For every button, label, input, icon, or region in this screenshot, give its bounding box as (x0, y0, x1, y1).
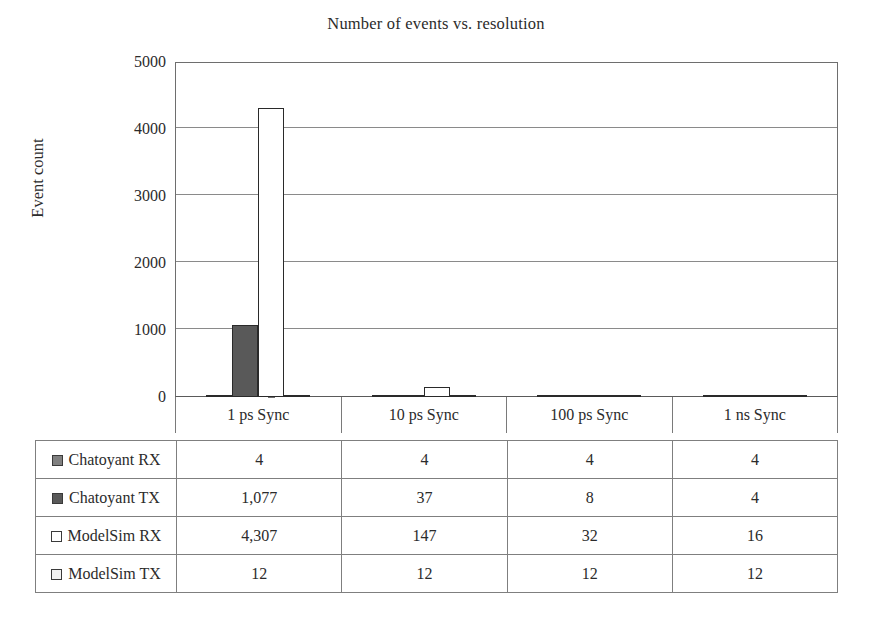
y-tick-label: 2000 (104, 254, 166, 272)
legend-label: Chatoyant TX (69, 489, 160, 507)
legend-cell: Chatoyant TX (36, 479, 177, 517)
plot-area (175, 62, 838, 397)
table-cell: 4 (672, 441, 837, 479)
table-row: Chatoyant RX4444 (36, 441, 838, 479)
table-cell: 8 (507, 479, 672, 517)
table-row: ModelSim TX12121212 (36, 555, 838, 593)
category-label-3: 100 ps Sync (507, 397, 673, 433)
category-label-4: 1 ns Sync (673, 397, 838, 433)
legend-label: ModelSim RX (68, 527, 162, 545)
legend-swatch-icon (52, 455, 63, 466)
legend-cell: ModelSim TX (36, 555, 177, 593)
table-cell: 12 (177, 555, 342, 593)
table-cell: 4,307 (177, 517, 342, 555)
table-cell: 12 (342, 555, 507, 593)
category-axis: 1 ps Sync10 ps Sync100 ps Sync1 ns Sync (175, 397, 838, 433)
table-cell: 12 (507, 555, 672, 593)
y-tick-label: 0 (104, 388, 166, 406)
table-cell: 4 (672, 479, 837, 517)
legend-cell: Chatoyant RX (36, 441, 177, 479)
legend-label: ModelSim TX (68, 565, 161, 583)
y-tick-label: 4000 (104, 120, 166, 138)
gridline (176, 261, 837, 262)
legend-swatch-icon (51, 569, 62, 580)
category-label-1: 1 ps Sync (176, 397, 342, 433)
data-table: Chatoyant RX4444Chatoyant TX1,0773784Mod… (35, 440, 838, 593)
table-cell: 147 (342, 517, 507, 555)
table-cell: 16 (672, 517, 837, 555)
table-cell: 32 (507, 517, 672, 555)
table-row: Chatoyant TX1,0773784 (36, 479, 838, 517)
table-cell: 12 (672, 555, 837, 593)
data-table-body: Chatoyant RX4444Chatoyant TX1,0773784Mod… (36, 441, 838, 593)
gridline (176, 194, 837, 195)
table-cell: 4 (507, 441, 672, 479)
y-tick-label: 5000 (104, 53, 166, 71)
chart-title: Number of events vs. resolution (0, 14, 872, 34)
legend-swatch-icon (51, 531, 62, 542)
legend-cell: ModelSim RX (36, 517, 177, 555)
y-tick-label: 3000 (104, 187, 166, 205)
y-axis-tick-labels: 010002000300040005000 (100, 62, 166, 397)
gridline (176, 127, 837, 128)
category-label-2: 10 ps Sync (342, 397, 508, 433)
legend-label: Chatoyant RX (69, 451, 161, 469)
legend-swatch-icon (52, 493, 63, 504)
table-cell: 4 (342, 441, 507, 479)
table-cell: 4 (177, 441, 342, 479)
table-row: ModelSim RX4,3071473216 (36, 517, 838, 555)
table-cell: 37 (342, 479, 507, 517)
table-cell: 1,077 (177, 479, 342, 517)
y-axis-title: Event count (28, 78, 48, 278)
y-tick-label: 1000 (104, 321, 166, 339)
gridline (176, 328, 837, 329)
